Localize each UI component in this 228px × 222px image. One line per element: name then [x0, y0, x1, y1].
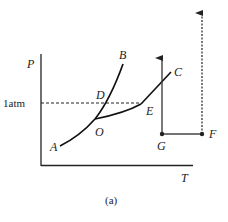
label-F: F [208, 127, 217, 141]
phase-diagram: P T 1atm B C D E O A G F (a) [0, 0, 228, 222]
x-axis-label: T [181, 171, 189, 185]
phase-curves [60, 64, 171, 146]
point-F-dot [200, 132, 204, 136]
label-C: C [174, 65, 183, 79]
label-D: D [95, 88, 105, 102]
curve-OE [95, 104, 141, 119]
axes [41, 54, 193, 166]
label-E: E [145, 104, 154, 118]
figure-caption: (a) [105, 194, 118, 207]
label-A: A [49, 140, 58, 154]
label-O: O [95, 125, 104, 139]
one-atm-label: 1atm [3, 97, 25, 109]
y-axis-label: P [26, 57, 35, 71]
label-G: G [157, 139, 166, 153]
curve-OA [60, 119, 95, 146]
point-G-dot [160, 132, 164, 136]
curve-EC [141, 72, 171, 104]
label-B: B [119, 48, 127, 62]
